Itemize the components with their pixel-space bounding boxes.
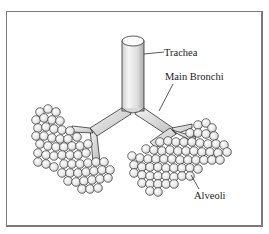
label-trachea: Trachea <box>164 47 198 58</box>
main-bronchi-leader-line <box>159 84 173 111</box>
left-alveoli-cluster <box>32 105 115 194</box>
airway-diagram: Trachea Main Bronchi Alveoli <box>0 0 269 234</box>
label-alveoli: Alveoli <box>194 190 226 201</box>
label-main-bronchi: Main Bronchi <box>165 71 224 82</box>
alveoli-leader-line <box>191 175 199 189</box>
trachea <box>122 36 144 113</box>
trachea-leader-line <box>144 52 164 54</box>
